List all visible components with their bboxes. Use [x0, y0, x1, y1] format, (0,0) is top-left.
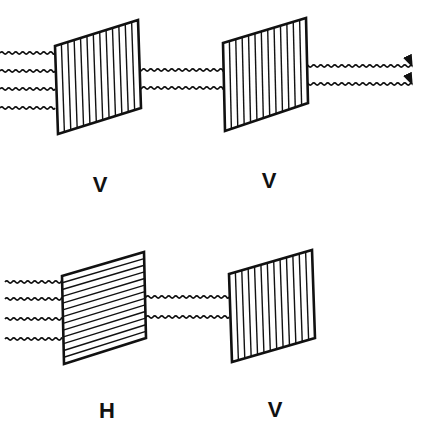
polarizer-bottom-right — [229, 250, 315, 362]
polarizer-top-left — [55, 20, 141, 134]
wave-line — [5, 281, 62, 283]
filter-label-top-right: V — [262, 168, 277, 194]
polarizer-diagram — [0, 0, 423, 434]
filter-label-bottom-right: V — [268, 397, 283, 423]
polarizer-top-right — [223, 18, 308, 131]
wave-line — [0, 88, 55, 90]
wave-line — [5, 298, 62, 300]
polarizer-bottom-left — [62, 252, 146, 364]
wave-line — [5, 338, 62, 340]
wave-line — [5, 318, 62, 320]
wave-line — [0, 52, 55, 54]
filter-label-bottom-left: H — [99, 398, 115, 424]
wave-line — [0, 107, 55, 109]
wave-line — [0, 70, 55, 72]
filter-label-top-left: V — [93, 172, 108, 198]
